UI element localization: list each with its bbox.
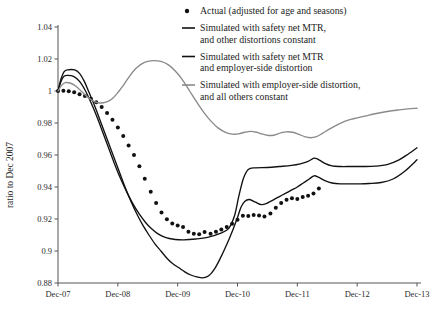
- data-point: [165, 217, 169, 221]
- data-point: [170, 221, 174, 225]
- x-axis-tick-label: Dec-12: [345, 289, 370, 299]
- data-point: [290, 196, 294, 200]
- y-axis-tick-label: 1.02: [37, 54, 52, 64]
- data-point: [78, 92, 82, 96]
- y-axis-tick-label: 0.88: [37, 278, 52, 288]
- y-axis-tick-label: 0.96: [37, 150, 52, 160]
- y-axis-tick-label: 0.9: [41, 246, 52, 256]
- data-point: [67, 89, 71, 93]
- data-point: [285, 198, 289, 202]
- data-point: [121, 134, 125, 138]
- chart-legend: Actual (adjusted for age and seasons)Sim…: [182, 5, 360, 102]
- legend-label: and all others constant: [200, 91, 288, 102]
- data-point: [127, 143, 131, 147]
- data-point: [149, 190, 153, 194]
- ratio-to-dec-2007-line-chart: 1.041.0210.980.960.940.920.90.88Dec-07De…: [0, 0, 441, 316]
- data-point: [61, 89, 65, 93]
- data-point: [203, 230, 207, 234]
- x-axis-tick-label: Dec-07: [45, 289, 70, 299]
- data-point: [241, 214, 245, 218]
- data-point: [143, 177, 147, 181]
- legend-label: Simulated with employer-side distortion,: [200, 79, 360, 90]
- data-point: [116, 125, 120, 129]
- data-point: [192, 232, 196, 236]
- data-point: [311, 191, 315, 195]
- legend-dot-marker: [185, 9, 189, 13]
- series-actual-dots: [56, 89, 321, 237]
- data-point: [268, 211, 272, 215]
- data-point: [295, 197, 299, 201]
- data-point: [214, 230, 218, 234]
- data-point: [317, 187, 321, 191]
- legend-label: and employer-side distortion: [200, 62, 313, 73]
- x-axis-tick-label: Dec-11: [285, 289, 310, 299]
- data-point: [132, 153, 136, 157]
- data-point: [72, 90, 76, 94]
- data-point: [279, 201, 283, 205]
- data-point: [246, 214, 250, 218]
- y-axis-tick-label: 1.04: [37, 22, 53, 32]
- data-point: [262, 215, 266, 219]
- data-point: [274, 206, 278, 210]
- y-axis-tick-label: 0.94: [37, 182, 53, 192]
- x-axis-tick-label: Dec-09: [165, 289, 190, 299]
- chart-container: 1.041.0210.980.960.940.920.90.88Dec-07De…: [0, 0, 441, 316]
- y-axis-tick-label: 0.98: [37, 118, 52, 128]
- data-point: [186, 230, 190, 234]
- data-point: [252, 213, 256, 217]
- x-axis-tick-label: Dec-08: [105, 289, 130, 299]
- data-point: [160, 211, 164, 215]
- data-point: [197, 232, 201, 236]
- data-point: [110, 118, 114, 122]
- data-point: [105, 111, 109, 115]
- legend-label: Simulated with safety net MTR: [200, 51, 324, 62]
- data-point: [301, 195, 305, 199]
- data-point: [137, 164, 141, 168]
- data-point: [257, 213, 261, 217]
- data-point: [306, 194, 310, 198]
- data-point: [176, 223, 180, 227]
- legend-label: Actual (adjusted for age and seasons): [200, 5, 347, 17]
- data-point: [219, 227, 223, 231]
- x-axis-tick-label: Dec-10: [225, 289, 250, 299]
- y-axis-tick-label: 1: [48, 86, 52, 96]
- y-axis-tick-label: 0.92: [37, 214, 52, 224]
- data-point: [181, 225, 185, 229]
- data-point: [154, 201, 158, 205]
- data-point: [209, 232, 213, 236]
- legend-label: and other distortions constant: [200, 34, 316, 45]
- data-point: [100, 105, 104, 109]
- y-axis-title: ratio to Dec 2007: [5, 142, 15, 208]
- legend-label: Simulated with safety net MTR,: [200, 22, 326, 33]
- x-axis-tick-label: Dec-13: [404, 289, 429, 299]
